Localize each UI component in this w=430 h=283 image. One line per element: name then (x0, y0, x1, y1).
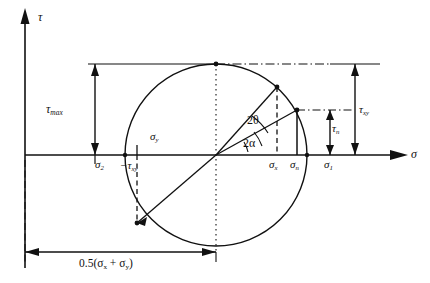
sigma-1-label-sub: 1 (329, 164, 332, 171)
sigma-x-label-sub: x (274, 164, 277, 171)
base-dimension-prefix: 0.5(σ (79, 257, 103, 269)
sigma-n-label: σn (290, 159, 299, 171)
tau-max-dimension (88, 64, 330, 164)
tau-n-arrow-top (326, 110, 334, 120)
tau-xy-label-sub: xy (363, 109, 369, 116)
base-dimension-label: 0.5(σx + σy) (79, 258, 133, 271)
diagram-canvas (0, 0, 430, 283)
axis-group (21, 8, 409, 268)
sigma-y-label: σy (150, 131, 158, 143)
mohrs-circle-figure: τ σ τmax σ2 σy −τxy 2θ 2α σx σn σ1 τn τx… (0, 0, 430, 283)
tau-max-label-sub: max (50, 108, 62, 117)
tau-max-arrow-top (91, 64, 99, 76)
tau-xy-label: τxy (359, 104, 369, 116)
sigma-x-label: σx (269, 159, 277, 171)
tau-n-dimension (297, 110, 352, 155)
sigma-n-label-sub: n (295, 164, 298, 171)
tau-n-arrow-bottom (326, 145, 334, 155)
base-dimension-end: ) (129, 257, 133, 269)
tau-max-label: τmax (46, 103, 63, 116)
base-dimension-arrow-right (202, 248, 216, 256)
tau-xy-arrow-top (351, 64, 359, 76)
sigma-2-label: σ2 (95, 159, 104, 171)
base-dimension-arrow-left (25, 248, 39, 256)
angle-two-theta-label: 2θ (247, 114, 259, 126)
sigma-1-label: σ1 (324, 159, 333, 171)
point-sigma-2 (123, 153, 127, 157)
tau-n-label: τn (332, 123, 339, 135)
neg-tau-xy-label-text: −τ (120, 159, 131, 171)
tau-n-label-sub: n (336, 128, 339, 135)
radius-to-sigma-y-point (137, 155, 216, 223)
tau-xy-arrow-bottom (351, 143, 359, 155)
sigma-2-label-sub: 2 (100, 164, 103, 171)
base-dimension-mid: + σ (107, 257, 125, 269)
neg-tau-xy-label: −τxy (120, 160, 137, 172)
point-sigma-1 (305, 153, 309, 157)
tau-xy-dimension (330, 64, 380, 155)
circle-point-markers (123, 62, 309, 226)
tau-max-arrow-bottom (91, 143, 99, 155)
radii-group (137, 87, 297, 226)
tau-axis-label: τ (38, 11, 42, 23)
sigma-axis-arrowhead (390, 150, 408, 160)
base-dimension-group (25, 160, 216, 262)
sigma-axis-label: σ (411, 148, 417, 160)
angle-two-alpha-label: 2α (243, 137, 255, 149)
tau-axis-arrowhead (21, 8, 30, 24)
sigma-y-label-sub: y (155, 136, 158, 143)
neg-tau-xy-label-sub: xy (131, 165, 137, 172)
